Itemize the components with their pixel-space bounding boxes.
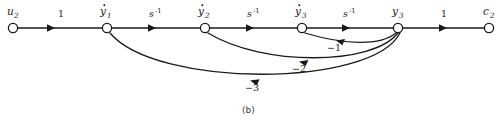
signal-flow-graph-figure: u 2 y 1 y 2 y 3 y — [0, 0, 501, 122]
gain-label-ydot2-ydot3-sup: -1 — [253, 7, 260, 15]
node-label-c2: c 2 — [483, 5, 495, 20]
node-label-ydot3: y 3 — [294, 4, 307, 20]
gain-label-y3-c2: 1 — [441, 8, 447, 19]
gain-label-u2-ydot1: 1 — [58, 8, 64, 19]
node-label-u2-base: u — [7, 5, 14, 17]
arrowhead-ydot1-ydot2 — [148, 24, 156, 32]
arrowhead-y3-c2 — [439, 24, 447, 32]
gain-label-ydot3-y3: s -1 — [343, 7, 356, 20]
node-label-ydot2-base: y — [197, 5, 205, 17]
arrowhead-ydot2-ydot3 — [246, 24, 254, 32]
feedback-gain-labels-group: −1 −2 −3 — [245, 42, 341, 93]
gain-label-ydot1-ydot2-base: s — [149, 8, 154, 19]
node-label-ydot1-sub: 1 — [107, 11, 112, 20]
node-label-y3: y 3 — [391, 5, 404, 20]
node-ydot1[interactable] — [102, 23, 111, 32]
arrowhead-ydot3-y3 — [342, 24, 350, 32]
node-label-ydot2-sub: 2 — [204, 11, 210, 20]
node-y3[interactable] — [393, 23, 402, 32]
gain-label-ydot2-ydot3-base: s — [247, 8, 252, 19]
signal-flow-graph-canvas: u 2 y 1 y 2 y 3 y — [0, 0, 501, 122]
figure-caption: (b) — [242, 105, 255, 115]
gain-label-ydot1-ydot2: s -1 — [149, 7, 162, 20]
node-label-ydot2: y 2 — [197, 4, 210, 20]
node-label-y3-sub: 3 — [399, 11, 404, 20]
forward-gain-labels-group: 1 s -1 s -1 s -1 1 — [58, 7, 447, 20]
gain-label-ydot3-y3-base: s — [343, 8, 348, 19]
gain-label-feedback-minus3: −3 — [245, 82, 259, 93]
node-label-u2: u 2 — [7, 5, 19, 20]
arrowhead-u2-ydot1 — [47, 24, 55, 32]
node-label-c2-sub: 2 — [489, 11, 495, 20]
gain-label-ydot1-ydot2-sup: -1 — [155, 7, 162, 15]
node-ydot3[interactable] — [297, 23, 306, 32]
node-u2[interactable] — [8, 23, 17, 32]
node-c2[interactable] — [484, 23, 493, 32]
node-label-c2-base: c — [483, 5, 489, 17]
gain-label-ydot3-y3-sup: -1 — [349, 7, 356, 15]
gain-label-ydot2-ydot3: s -1 — [247, 7, 260, 20]
edge-y3-ydot2-feedback — [208, 33, 398, 58]
edge-y3-ydot3-feedback — [305, 33, 396, 42]
node-label-ydot1: y 1 — [99, 4, 112, 20]
node-label-u2-sub: 2 — [13, 11, 19, 20]
gain-label-feedback-minus2: −2 — [292, 63, 306, 74]
node-label-ydot1-base: y — [99, 5, 107, 17]
node-label-ydot3-base: y — [294, 5, 302, 17]
gain-label-feedback-minus1: −1 — [327, 42, 341, 53]
node-label-y3-base: y — [391, 5, 399, 17]
feedback-edges-group — [110, 33, 400, 85]
node-label-ydot3-sub: 3 — [302, 11, 307, 20]
node-ydot2[interactable] — [200, 23, 209, 32]
